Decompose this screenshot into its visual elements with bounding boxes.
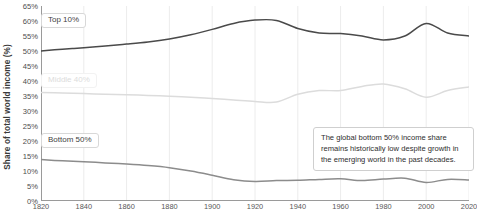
x-axis-tick-labels: 1820184018601880190019201940196019802000…: [41, 202, 469, 214]
y-axis-tick-label: 50%: [23, 47, 38, 56]
y-axis-tick-label: 55%: [23, 32, 38, 41]
x-axis-tick-label: 1940: [290, 202, 306, 211]
x-axis-tick-label: 1920: [247, 202, 263, 211]
x-axis-tick-label: 2020: [461, 202, 477, 211]
x-axis-tick-label: 1840: [76, 202, 92, 211]
series-label-middle-40: Middle 40%: [41, 73, 97, 88]
y-axis-tick-label: 40%: [23, 77, 38, 86]
y-axis-tick-label: 10%: [23, 167, 38, 176]
series-label-top-10: Top 10%: [41, 13, 86, 28]
y-axis-tick-label: 15%: [23, 152, 38, 161]
y-axis-tick-label: 5%: [27, 182, 38, 191]
y-axis-title: Share of total world income (%): [0, 0, 14, 214]
y-axis-tick-labels: 0%5%10%15%20%25%30%35%40%45%50%55%60%65%: [14, 0, 40, 206]
x-axis-tick-label: 1900: [204, 202, 220, 211]
vertical-gridlines: [84, 6, 469, 201]
y-axis-tick-label: 60%: [23, 17, 38, 26]
x-axis-tick-label: 1880: [161, 202, 177, 211]
y-axis-tick-label: 35%: [23, 92, 38, 101]
y-axis-tick-label: 30%: [23, 107, 38, 116]
y-axis-tick-label: 45%: [23, 62, 38, 71]
x-axis-tick-label: 1860: [118, 202, 134, 211]
plot-svg: [41, 6, 469, 201]
y-axis-tick-label: 65%: [23, 2, 38, 11]
plot-area: [41, 6, 469, 201]
series-label-bottom-50: Bottom 50%: [41, 133, 99, 148]
x-axis-tick-label: 1980: [375, 202, 391, 211]
x-axis-tick-label: 1960: [332, 202, 348, 211]
x-axis-tick-label: 1820: [33, 202, 49, 211]
x-axis-tick-label: 2000: [418, 202, 434, 211]
y-axis-tick-label: 25%: [23, 122, 38, 131]
annotation-callout: The global bottom 50% income share remai…: [313, 127, 474, 171]
y-axis-tick-label: 20%: [23, 137, 38, 146]
